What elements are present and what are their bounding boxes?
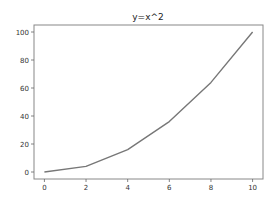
y-tick-label: 100 [16, 29, 29, 37]
x-tick-label: 10 [248, 184, 257, 192]
data-series [44, 32, 252, 172]
series-line [44, 32, 252, 172]
y-tick-label: 20 [20, 141, 29, 149]
y-tick-label: 60 [20, 85, 29, 93]
plot-area-border [34, 25, 263, 179]
x-tick-label: 0 [42, 184, 46, 192]
plot-frame [34, 25, 263, 179]
y-tick-label: 0 [25, 169, 29, 177]
x-tick-label: 2 [84, 184, 88, 192]
y-axis: 020406080100 [16, 29, 34, 177]
x-tick-label: 6 [167, 184, 172, 192]
line-chart: y=x^2 020406080100 0246810 [0, 0, 277, 201]
y-tick-label: 80 [20, 57, 29, 65]
x-tick-label: 4 [125, 184, 130, 192]
y-tick-label: 40 [20, 113, 29, 121]
chart-title: y=x^2 [132, 12, 163, 22]
x-tick-label: 8 [209, 184, 213, 192]
x-axis: 0246810 [42, 179, 257, 192]
